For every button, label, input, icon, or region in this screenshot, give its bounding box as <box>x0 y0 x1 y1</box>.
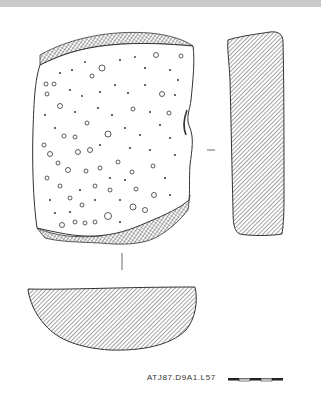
specimen-caption: ATJ87.D9A1.L57 <box>147 373 216 382</box>
artifact-drawing <box>0 0 321 400</box>
scale-bar <box>228 378 283 381</box>
side-profile <box>228 32 284 236</box>
face-view <box>33 32 194 244</box>
cross-section <box>28 287 196 350</box>
